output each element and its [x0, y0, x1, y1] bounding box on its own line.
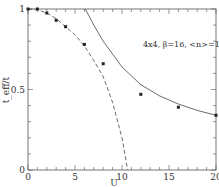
data-point [102, 62, 105, 65]
x-axis-label: U [110, 178, 118, 187]
x-tick-label: 20 [210, 172, 219, 182]
annotation: 4x4, β=16, <n>=1 [143, 40, 219, 49]
data-point [27, 8, 30, 11]
x-tick-label: 0 [25, 172, 31, 182]
data-point [55, 19, 58, 22]
y-tick-label: 1 [19, 4, 25, 14]
x-tick-label: 10 [116, 172, 128, 182]
y-tick-label: 0.5 [11, 85, 26, 95]
data-point [215, 114, 218, 117]
data-point [45, 12, 48, 15]
y-axis-label: t_eff/t [1, 76, 12, 103]
axis-ticks [28, 9, 216, 170]
data-point [177, 106, 180, 109]
dashed-curve [28, 9, 128, 170]
data-point [139, 93, 142, 96]
chart: 0510152000.51 4x4, β=16, <n>=1 U t_eff/t [0, 0, 219, 187]
data-point [83, 43, 86, 46]
x-tick-label: 5 [72, 172, 78, 182]
solid-curve [85, 9, 216, 115]
plot-frame [28, 9, 216, 170]
data-point [36, 8, 39, 11]
data-markers [27, 8, 218, 117]
tick-labels: 0510152000.51 [11, 4, 219, 182]
data-point [64, 25, 67, 28]
y-tick-label: 0 [19, 165, 25, 175]
x-tick-label: 15 [163, 172, 175, 182]
